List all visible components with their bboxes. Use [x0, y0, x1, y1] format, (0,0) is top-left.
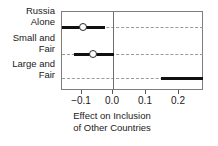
- y-axis-label-russia-alone: Russia Alone: [26, 6, 55, 27]
- x-axis-ticklabel-neg-0-1: −0.1: [71, 95, 91, 107]
- x-axis-tick-0-0: [112, 90, 113, 94]
- y-axis-label-line2: Fair: [12, 70, 55, 81]
- x-axis-tick-0-1: [145, 90, 146, 94]
- y-axis-label-line1: Russia: [26, 6, 55, 17]
- y-axis-label-line1: Large and: [12, 59, 55, 70]
- x-axis-ticklabel-0-0: 0.0: [105, 95, 119, 107]
- x-axis-tick-labels: −0.1 0.0 0.1 0.2: [0, 95, 218, 108]
- x-axis-title: Effect on Inclusion of Other Countries: [32, 110, 192, 134]
- x-axis-ticklabel-0-1: 0.1: [138, 95, 152, 107]
- y-axis-label-large-and-fair: Large and Fair: [12, 59, 55, 80]
- plot-area: [61, 11, 203, 90]
- y-axis-category-labels: Russia Alone Small and Fair Large and Fa…: [0, 11, 58, 90]
- x-axis-tick-0-2: [178, 90, 179, 94]
- y-axis-label-small-and-fair: Small and Fair: [13, 33, 55, 54]
- ci-bar-large-and-fair: [161, 77, 203, 80]
- x-axis-ticklabel-0-2: 0.2: [171, 95, 185, 107]
- x-axis-title-line2: of Other Countries: [32, 122, 192, 134]
- effect-plot-figure: Russia Alone Small and Fair Large and Fa…: [0, 0, 218, 146]
- x-axis-tick-neg-0-1: [81, 90, 82, 94]
- y-axis-label-line2: Alone: [26, 17, 55, 28]
- estimate-marker-russia-alone: [79, 23, 87, 31]
- x-axis-title-line1: Effect on Inclusion: [32, 110, 192, 122]
- y-axis-label-line2: Fair: [13, 44, 55, 55]
- y-axis-label-line1: Small and: [13, 33, 55, 44]
- zero-reference-line: [113, 12, 114, 89]
- estimate-marker-small-and-fair: [89, 50, 97, 58]
